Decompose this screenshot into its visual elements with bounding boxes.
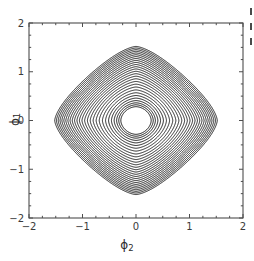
x-tick-label: −1 (75, 221, 90, 232)
edge-fragment (250, 38, 252, 45)
x-axis-label-sub: 2 (128, 243, 133, 253)
contour-svg: −2−1012 −2−1012 (0, 0, 254, 261)
y-axis-label: ϕ1 (8, 99, 23, 139)
y-tick-label: −1 (9, 164, 24, 175)
plot-canvas: −2−1012 −2−1012 (0, 0, 254, 261)
y-axis-label-glyph: ϕ (8, 118, 22, 126)
y-axis-label-sub: 1 (12, 113, 22, 118)
edge-fragment (250, 8, 252, 15)
y-tick-label: 2 (18, 18, 24, 29)
x-tick-label: 1 (186, 221, 192, 232)
cropped-edge-fragments (248, 0, 254, 52)
y-tick-label: −2 (9, 213, 24, 224)
x-axis-label: ϕ2 (0, 238, 254, 253)
y-tick-label: 1 (18, 66, 24, 77)
x-tick-label: 0 (133, 221, 139, 232)
contour-figure: f(ϕ1,ϕ2) −2−1012 −2−1012 ϕ2 ϕ1 (0, 0, 254, 261)
x-tick-label: 2 (240, 221, 246, 232)
edge-fragment (250, 23, 252, 30)
